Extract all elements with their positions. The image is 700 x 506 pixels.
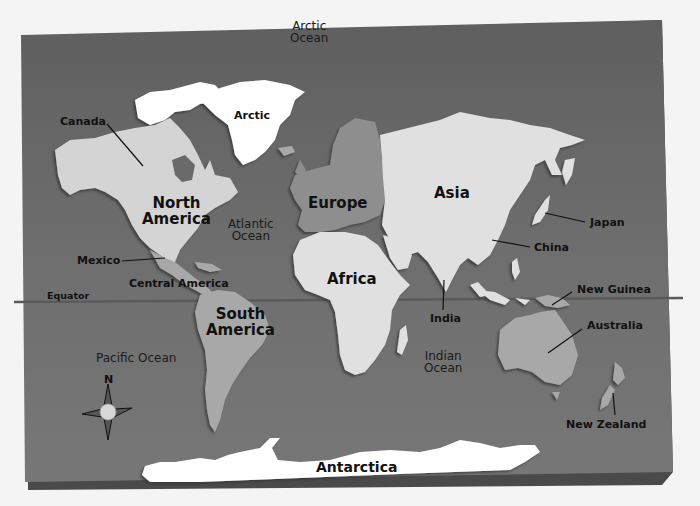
arctic-ocean-label: Arctic Ocean bbox=[290, 20, 328, 44]
india-label: India bbox=[430, 313, 461, 324]
new-guinea-label: New Guinea bbox=[577, 284, 651, 295]
new-zealand-label: New Zealand bbox=[566, 419, 646, 430]
south-america-label: South America bbox=[206, 307, 275, 339]
central-america-label: Central America bbox=[129, 278, 229, 289]
europe-label: Europe bbox=[308, 196, 368, 212]
mexico-label: Mexico bbox=[77, 255, 120, 266]
north-america-label: North America bbox=[142, 196, 211, 228]
africa-label: Africa bbox=[327, 272, 377, 288]
equator-label: Equator bbox=[47, 291, 89, 301]
australia-label: Australia bbox=[587, 320, 643, 331]
pacific-ocean-label: Pacific Ocean bbox=[96, 352, 176, 364]
indian-ocean-label: Indian Ocean bbox=[424, 350, 462, 374]
japan-label: Japan bbox=[590, 217, 625, 228]
compass-north-label: N bbox=[104, 374, 113, 385]
arctic-label: Arctic bbox=[234, 110, 270, 121]
asia-label: Asia bbox=[434, 186, 470, 202]
antarctica-label: Antarctica bbox=[316, 460, 397, 475]
atlantic-ocean-label: Atlantic Ocean bbox=[228, 218, 274, 242]
china-label: China bbox=[534, 242, 569, 253]
canada-label: Canada bbox=[60, 116, 106, 127]
